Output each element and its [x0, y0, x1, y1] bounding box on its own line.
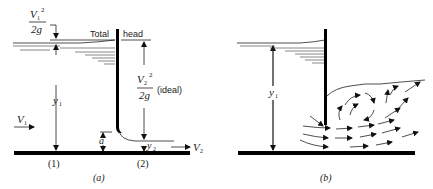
svg-text:(ideal): (ideal): [157, 85, 182, 95]
y1-label-b: y: [268, 86, 274, 98]
figure-a: V 1 2 2g Total head V 2 2 2g (ideal) V 1: [13, 6, 203, 184]
caption-b: (b): [320, 172, 332, 184]
svg-text:y: y: [146, 140, 152, 151]
sluice-gate-b: [324, 29, 327, 125]
figure-b: y 1: [237, 29, 425, 184]
head-label: head: [123, 29, 143, 39]
section-1-label: (1): [48, 158, 60, 170]
svg-text:2: 2: [41, 6, 45, 14]
sluice-gate: [116, 29, 122, 133]
y1-label: y: [52, 94, 58, 106]
svg-text:2g: 2g: [139, 89, 151, 101]
svg-text:2: 2: [144, 80, 147, 86]
velocity-head-1-label: V 1 2 2g: [29, 6, 56, 55]
recirculation-flow-arrows: [300, 82, 420, 147]
svg-text:2g: 2g: [31, 23, 43, 35]
upstream-water-surface-b: [237, 40, 325, 63]
sluice-gate-diagram: V 1 2 2g Total head V 2 2 2g (ideal) V 1: [0, 0, 433, 189]
total-label: Total: [90, 29, 109, 39]
section-2-label: (2): [137, 158, 149, 170]
svg-text:1: 1: [275, 93, 278, 99]
svg-text:1: 1: [59, 101, 62, 107]
svg-text:2: 2: [200, 148, 203, 154]
svg-text:1: 1: [24, 120, 27, 126]
caption-a: (a): [93, 172, 105, 184]
y2-dimension: y 2: [144, 140, 156, 152]
svg-text:2: 2: [149, 71, 153, 79]
svg-text:a: a: [99, 135, 104, 146]
velocity-head-2-label: V 2 2 2g (ideal): [137, 71, 182, 101]
gate-opening-dimension: a: [99, 132, 112, 151]
svg-text:1: 1: [37, 15, 40, 21]
upstream-water-surface: [13, 40, 115, 64]
